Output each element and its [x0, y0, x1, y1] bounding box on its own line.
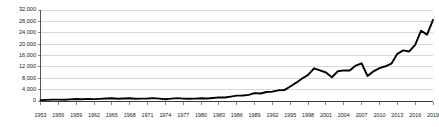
x-tick-label: 2016 [409, 112, 421, 118]
x-tick-label: 2010 [373, 112, 385, 118]
x-tick-label: 1959 [70, 112, 82, 118]
x-axis-labels: 1953195619591962196519681971197419771980… [35, 112, 439, 118]
y-tick-label: 24,000 [19, 29, 36, 35]
y-tick-label: 12,000 [19, 63, 36, 69]
y-tick-label: 8,000 [22, 75, 36, 81]
y-axis-labels: 04,0008,00012,00016,00020,00024,00028,00… [19, 6, 36, 103]
x-tick-label: 1995 [284, 112, 296, 118]
x-tick-label: 1968 [124, 112, 136, 118]
y-tick-label: 32,000 [19, 6, 36, 12]
dow-jones-line-chart: 04,0008,00012,00016,00020,00024,00028,00… [0, 0, 439, 127]
y-tick-label: 28,000 [19, 18, 36, 24]
x-tick-label: 1980 [195, 112, 207, 118]
x-tick-label: 2004 [338, 112, 350, 118]
x-tick-label: 2013 [391, 112, 403, 118]
x-tick-label: 1998 [302, 112, 314, 118]
gridlines [41, 10, 434, 90]
x-tick-label: 1992 [266, 112, 278, 118]
x-tick-label: 1983 [213, 112, 225, 118]
x-tick-label: 1989 [249, 112, 261, 118]
x-tick-label: 2007 [356, 112, 368, 118]
x-tick-label: 1977 [177, 112, 189, 118]
x-tick-label: 1962 [88, 112, 100, 118]
x-tick-label: 1956 [52, 112, 64, 118]
x-tick-label: 2001 [320, 112, 332, 118]
x-tick-label: 1953 [35, 112, 47, 118]
data-series-line [41, 20, 434, 100]
x-tick-label: 2019 [427, 112, 439, 118]
y-tick-label: 16,000 [19, 52, 36, 58]
x-tick-label: 1974 [159, 112, 171, 118]
x-tick-label: 1986 [231, 112, 243, 118]
y-tick-label: 4,000 [22, 86, 36, 92]
x-tick-label: 1971 [142, 112, 154, 118]
x-axis-ticks [41, 102, 434, 105]
y-tick-label: 0 [33, 97, 36, 103]
y-tick-label: 20,000 [19, 41, 36, 47]
x-tick-label: 1965 [106, 112, 118, 118]
chart-canvas: 04,0008,00012,00016,00020,00024,00028,00… [0, 0, 439, 127]
